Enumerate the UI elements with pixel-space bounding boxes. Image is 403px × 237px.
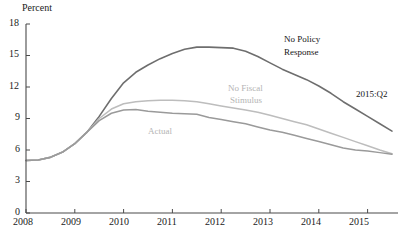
annotation-no-policy-response-line1: No Policy: [284, 34, 320, 44]
x-tick-label-2014: 2014: [301, 216, 321, 227]
annotation-no-policy-response-line2: Response: [284, 47, 319, 57]
y-tick-label-12: 12: [9, 80, 19, 91]
y-axis-title: Percent: [22, 2, 52, 13]
y-tick-label-3: 3: [15, 174, 20, 185]
y-tick-label-9: 9: [15, 111, 20, 122]
annotation-no-fiscal-stimulus-line1: No Fiscal: [228, 83, 263, 93]
x-tick-label-2010: 2010: [109, 216, 129, 227]
series-line-no-fiscal-stimulus: [26, 100, 392, 160]
unemployment-scenarios-chart: Percent 18 15 12 9 6 3 0 2008 2009 2010 …: [0, 0, 403, 237]
x-tick-label-2012: 2012: [205, 216, 225, 227]
y-tick-label-18: 18: [9, 17, 19, 28]
y-tick-label-6: 6: [15, 143, 20, 154]
x-tick-label-2011: 2011: [157, 216, 177, 227]
x-tick-label-2009: 2009: [61, 216, 81, 227]
chart-svg: [0, 0, 403, 237]
y-tick-label-15: 15: [9, 48, 19, 59]
annotation-2015q2: 2015:Q2: [356, 89, 388, 99]
x-tick-label-2015: 2015: [349, 216, 369, 227]
annotation-no-fiscal-stimulus-line2: Stimulus: [230, 95, 262, 105]
x-tick-label-2013: 2013: [253, 216, 273, 227]
series-layer: [26, 47, 392, 160]
x-tick-label-2008: 2008: [13, 216, 33, 227]
annotation-actual: Actual: [148, 126, 172, 136]
